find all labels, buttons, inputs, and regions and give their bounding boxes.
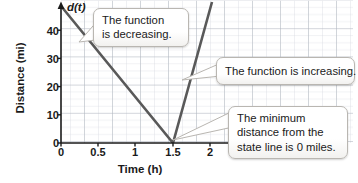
callout-increasing-line1: The function is increasing.: [225, 64, 347, 78]
y-axis-function-label: d(t): [67, 1, 86, 13]
callout-decreasing-line2: is decreasing.: [102, 27, 181, 41]
callout-decreasing: The function is decreasing.: [93, 8, 189, 47]
callout-minimum-line2: distance from the: [237, 125, 340, 139]
callout-minimum-line1: The minimum: [237, 111, 340, 125]
callout-increasing: The function is increasing.: [216, 57, 355, 85]
callout-minimum: The minimum distance from the state line…: [228, 106, 348, 159]
graph-figure: d(t) t Distance (mi) Time (h) 0 10 20 30…: [0, 0, 358, 183]
callout-decreasing-line1: The function: [102, 13, 181, 27]
callout-minimum-line3: state line is 0 miles.: [237, 140, 340, 154]
